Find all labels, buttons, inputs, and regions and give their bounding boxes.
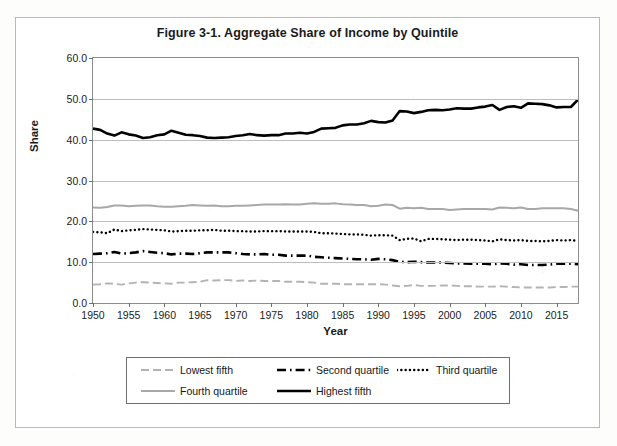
y-tick-mark: [89, 58, 93, 59]
y-tick-label: 30.0: [67, 175, 87, 187]
x-tick-mark: [200, 303, 201, 307]
x-tick-label: 1950: [81, 309, 104, 321]
x-tick-label: 2000: [438, 309, 461, 321]
y-tick-label: 10.0: [67, 256, 87, 268]
x-tick-label: 1985: [331, 309, 354, 321]
y-tick-mark: [89, 262, 93, 263]
y-axis-title: Share: [28, 120, 40, 152]
x-tick-mark: [271, 303, 272, 307]
x-tick-mark: [164, 303, 165, 307]
series-line-highest-fifth: [93, 100, 578, 138]
x-tick-mark: [378, 303, 379, 307]
legend-line-sample: [141, 364, 175, 376]
legend-label: Lowest fifth: [180, 364, 233, 376]
legend-item-third-quartile[interactable]: Third quartile: [397, 364, 497, 376]
gridline-10.0: [93, 262, 578, 263]
gridline-50.0: [93, 99, 578, 100]
x-axis-title: Year: [92, 325, 579, 337]
x-tick-label: 2015: [545, 309, 568, 321]
legend-line-sample: [277, 364, 311, 376]
series-line-fourth-quartile: [93, 203, 578, 210]
gridline-30.0: [93, 181, 578, 182]
x-tick-label: 1995: [402, 309, 425, 321]
x-tick-label: 1965: [188, 309, 211, 321]
gridline-40.0: [93, 140, 578, 141]
y-tick-label: 0.0: [72, 297, 87, 309]
legend-line-sample: [277, 385, 311, 397]
legend-label: Third quartile: [436, 364, 497, 376]
x-tick-label: 1990: [367, 309, 390, 321]
x-tick-mark: [307, 303, 308, 307]
x-tick-mark: [521, 303, 522, 307]
y-tick-mark: [89, 181, 93, 182]
x-tick-label: 2010: [509, 309, 532, 321]
x-tick-mark: [343, 303, 344, 307]
legend-item-second-quartile[interactable]: Second quartile: [277, 364, 389, 376]
y-tick-mark: [89, 140, 93, 141]
x-tick-label: 2005: [474, 309, 497, 321]
x-tick-mark: [236, 303, 237, 307]
legend-item-highest-fifth[interactable]: Highest fifth: [277, 385, 371, 397]
x-tick-label: 1955: [117, 309, 140, 321]
chart-legend: Lowest fifthSecond quartileThird quartil…: [126, 357, 510, 404]
legend-item-lowest-fifth[interactable]: Lowest fifth: [141, 364, 233, 376]
x-tick-mark: [485, 303, 486, 307]
x-tick-mark: [414, 303, 415, 307]
x-tick-mark: [450, 303, 451, 307]
y-tick-label: 60.0: [67, 52, 87, 64]
y-tick-label: 40.0: [67, 134, 87, 146]
plot-area: 0.010.020.030.040.050.060.0 195019551960…: [92, 57, 579, 304]
legend-label: Second quartile: [316, 364, 389, 376]
y-tick-mark: [89, 221, 93, 222]
y-tick-label: 20.0: [67, 215, 87, 227]
legend-label: Highest fifth: [316, 385, 371, 397]
x-tick-mark: [557, 303, 558, 307]
x-tick-label: 1970: [224, 309, 247, 321]
x-tick-label: 1960: [153, 309, 176, 321]
y-tick-mark: [89, 99, 93, 100]
x-tick-label: 1980: [295, 309, 318, 321]
page-title: Figure 3-1. Aggregate Share of Income by…: [15, 26, 600, 40]
legend-line-sample: [397, 364, 431, 376]
series-line-third-quartile: [93, 229, 578, 241]
x-tick-mark: [93, 303, 94, 307]
gridline-20.0: [93, 221, 578, 222]
legend-item-fourth-quartile[interactable]: Fourth quartile: [141, 385, 248, 397]
y-tick-label: 50.0: [67, 93, 87, 105]
x-tick-label: 1975: [260, 309, 283, 321]
series-line-lowest-fifth: [93, 280, 578, 287]
legend-line-sample: [141, 385, 175, 397]
legend-label: Fourth quartile: [180, 385, 248, 397]
x-tick-mark: [129, 303, 130, 307]
